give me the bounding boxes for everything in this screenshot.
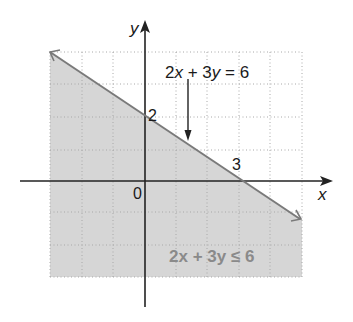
- x-axis-label: x: [318, 186, 327, 203]
- eq-plus-3: + 3: [183, 63, 212, 82]
- origin-label: 0: [133, 186, 142, 202]
- inequality-label: 2x + 3y ≤ 6: [169, 248, 254, 265]
- equation-label: 2x + 3y = 6: [165, 64, 249, 81]
- y-axis-label: y: [130, 20, 139, 37]
- eq-var-x: x: [174, 63, 183, 82]
- eq-rhs: = 6: [220, 63, 249, 82]
- graph-canvas: [0, 0, 353, 322]
- x-intercept-label: 3: [232, 157, 241, 173]
- annotation-arrow-icon: [185, 130, 192, 141]
- y-intercept-label: 2: [148, 108, 157, 124]
